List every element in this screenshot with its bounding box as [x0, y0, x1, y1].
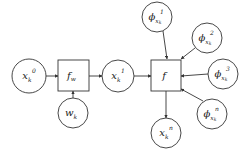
node-superscript: n [215, 105, 219, 112]
node-phi3: ϕxk3 [208, 59, 238, 89]
edge-phi2-to-f [181, 48, 195, 59]
node-superscript: 1 [121, 67, 125, 74]
node-fw: fw [58, 60, 89, 91]
nodes-layer: xk0fwwkxk1fxknϕxk1ϕxk2ϕxk3ϕxkn [12, 2, 238, 148]
box-shape [151, 60, 181, 91]
node-superscript: 1 [160, 8, 164, 15]
edge-phin-to-f [181, 89, 203, 101]
node-xn: xkn [151, 118, 181, 148]
node-f: f [151, 60, 181, 91]
node-phin: ϕxkn [197, 99, 227, 129]
node-phi2: ϕxk2 [192, 23, 222, 53]
node-superscript: 2 [209, 29, 214, 36]
edge-phi3-to-f [181, 74, 208, 76]
node-phi1: ϕxk1 [142, 2, 172, 32]
node-superscript: n [169, 124, 173, 131]
node-superscript: 3 [226, 65, 230, 72]
node-wk: wk [58, 98, 88, 128]
edge-phi1-to-f [163, 31, 167, 59]
node-x1: xk1 [102, 60, 134, 92]
factor-graph-diagram: xk0fwwkxk1fxknϕxk1ϕxk2ϕxk3ϕxkn [0, 0, 246, 164]
node-superscript: 0 [32, 67, 36, 74]
node-x0: xk0 [12, 59, 46, 93]
